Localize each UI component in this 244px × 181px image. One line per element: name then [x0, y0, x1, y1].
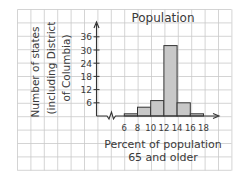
x-tick-label: 14 — [172, 123, 183, 133]
y-axis-label-line: of Columbia) — [60, 34, 72, 101]
axes: 61218243036681012141618 — [81, 22, 219, 133]
y-tick-label: 12 — [81, 85, 92, 95]
y-axis-label-line: (including District — [45, 22, 57, 115]
histogram-bar — [164, 46, 177, 116]
x-axis-label-line: Percent of population — [104, 138, 222, 151]
x-tick-label: 16 — [185, 123, 196, 133]
x-tick-label: 12 — [158, 123, 169, 133]
chart-title: Population — [131, 11, 194, 25]
x-tick-label: 18 — [198, 123, 209, 133]
y-tick-label: 30 — [81, 46, 93, 56]
y-axis-label-line: Number of states — [29, 26, 41, 117]
x-tick-label: 10 — [145, 123, 156, 133]
x-tick-label: 6 — [122, 123, 127, 133]
x-tick-label: 8 — [135, 123, 140, 133]
histogram-bar — [151, 101, 164, 116]
y-tick-label: 24 — [81, 59, 93, 69]
y-tick-label: 18 — [81, 72, 93, 82]
histogram-bar — [138, 107, 151, 116]
x-axis-label: Percent of population65 and older — [104, 138, 222, 164]
histogram-bar — [177, 103, 190, 116]
y-tick-label: 36 — [81, 32, 93, 42]
y-tick-label: 6 — [86, 98, 92, 108]
x-axis-label-line: 65 and older — [128, 151, 198, 164]
histogram-chart: 61218243036681012141618 Population Numbe… — [0, 0, 244, 181]
